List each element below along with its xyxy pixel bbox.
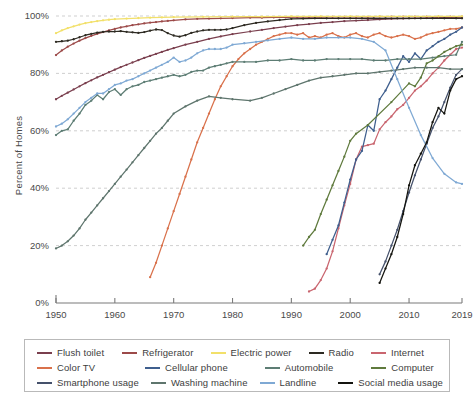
legend-item-cellular-phone[interactable]: Cellular phone <box>145 362 228 373</box>
data-point <box>249 30 251 32</box>
data-point <box>261 15 263 17</box>
legend-item-computer[interactable]: Computer <box>371 362 434 373</box>
legend-item-social-media-usage[interactable]: Social media usage <box>338 377 443 388</box>
data-point <box>408 97 410 99</box>
data-point <box>408 107 410 109</box>
data-point <box>149 79 151 81</box>
data-point <box>243 24 245 26</box>
data-point <box>455 181 457 183</box>
legend-item-landline[interactable]: Landline <box>260 377 317 388</box>
data-point <box>284 25 286 27</box>
legend-item-refrigerator[interactable]: Refrigerator <box>122 347 193 358</box>
data-point <box>396 78 398 80</box>
legend-item-smartphone-usage[interactable]: Smartphone usage <box>37 377 139 388</box>
data-point <box>161 127 163 129</box>
data-point <box>120 176 122 178</box>
data-point <box>326 199 328 201</box>
data-point <box>355 19 357 21</box>
data-point <box>308 36 310 38</box>
data-point <box>61 29 63 31</box>
data-point <box>431 17 433 19</box>
data-point <box>137 59 139 61</box>
data-point <box>167 32 169 34</box>
data-point <box>220 29 222 31</box>
data-point <box>449 34 451 36</box>
data-point <box>90 97 92 99</box>
series-cellular-phone <box>326 26 464 255</box>
data-point <box>426 79 428 81</box>
data-point <box>67 240 69 242</box>
data-point <box>84 34 86 36</box>
data-point <box>137 17 139 19</box>
data-point <box>161 20 163 22</box>
data-point <box>326 58 328 60</box>
data-point <box>390 36 392 38</box>
legend-item-electric-power[interactable]: Electric power <box>211 347 292 358</box>
data-point <box>455 48 457 50</box>
legend-item-washing-machine[interactable]: Washing machine <box>151 377 248 388</box>
data-point <box>408 17 410 19</box>
data-point <box>208 29 210 31</box>
legend-item-color-tv[interactable]: Color TV <box>37 362 95 373</box>
legend-item-internet[interactable]: Internet <box>371 347 424 358</box>
data-point <box>90 79 92 81</box>
data-point <box>214 48 216 50</box>
data-point <box>367 19 369 21</box>
data-point <box>373 17 375 19</box>
data-point <box>131 61 133 63</box>
data-point <box>243 61 245 63</box>
data-point <box>420 17 422 19</box>
data-point <box>96 204 98 206</box>
data-point <box>408 82 410 84</box>
data-point <box>243 52 245 54</box>
data-point <box>443 55 445 57</box>
data-point <box>314 38 316 40</box>
data-point <box>61 95 63 97</box>
data-point <box>196 69 198 71</box>
data-point <box>378 282 380 284</box>
data-point <box>449 68 451 70</box>
data-point <box>408 35 410 37</box>
data-point <box>396 35 398 37</box>
data-point <box>149 29 151 31</box>
data-point <box>190 71 192 73</box>
data-point <box>314 229 316 231</box>
legend-item-automobile[interactable]: Automobile <box>265 362 334 373</box>
data-point <box>373 143 375 145</box>
data-point <box>408 61 410 63</box>
data-point <box>90 211 92 213</box>
data-point <box>108 71 110 73</box>
data-point <box>320 15 322 17</box>
data-point <box>155 67 157 69</box>
data-point <box>443 101 445 103</box>
data-point <box>167 120 169 122</box>
data-point <box>196 18 198 20</box>
series-washing-machine <box>55 67 463 250</box>
data-point <box>61 40 63 42</box>
data-point <box>73 112 75 114</box>
data-point <box>420 36 422 38</box>
data-point <box>414 164 416 166</box>
data-point <box>114 18 116 20</box>
legend-label-smartphone-usage: Smartphone usage <box>57 377 139 388</box>
data-point <box>202 127 204 129</box>
legend-item-radio[interactable]: Radio <box>309 347 354 358</box>
data-point <box>331 32 333 34</box>
plot-area: Percent of Homes 0%20%40%60%80%100%19501… <box>0 0 475 330</box>
data-point <box>90 35 92 37</box>
data-point <box>208 67 210 69</box>
data-point <box>455 74 457 76</box>
data-point <box>231 44 233 46</box>
data-point <box>437 41 439 43</box>
data-point <box>361 17 363 19</box>
data-point <box>155 53 157 55</box>
data-point <box>73 38 75 40</box>
data-point <box>384 89 386 91</box>
data-point <box>343 74 345 76</box>
data-point <box>308 23 310 25</box>
data-point <box>90 21 92 23</box>
legend-item-flush-toilet[interactable]: Flush toilet <box>37 347 104 358</box>
data-point <box>202 49 204 51</box>
x-tick-label: 1970 <box>152 309 196 320</box>
x-tick-label: 2000 <box>328 309 372 320</box>
